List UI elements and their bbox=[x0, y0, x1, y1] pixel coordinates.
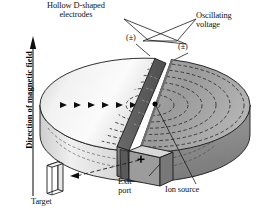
target-plate bbox=[47, 162, 63, 195]
label-polarity-left: (±) bbox=[126, 34, 136, 43]
target-bottom-edge bbox=[52, 191, 63, 195]
beam-arrow-head bbox=[70, 173, 79, 179]
label-target: Target bbox=[31, 198, 52, 207]
leader-oscillating-b bbox=[177, 19, 196, 41]
leader-pm-right bbox=[174, 53, 188, 60]
cut-face-edge bbox=[120, 150, 129, 181]
label-hollow-d-shaped-electrodes: Hollow D-shaped electrodes bbox=[47, 2, 105, 19]
label-polarity-right: (±) bbox=[178, 43, 188, 52]
leader-pm-left bbox=[136, 44, 150, 56]
label-ion-source: Ion source bbox=[165, 186, 199, 195]
exit-port-side-face bbox=[160, 152, 173, 186]
label-oscillating-voltage: Oscillating voltage bbox=[196, 12, 232, 29]
cyclotron-figure: Hollow D-shaped electrodes Oscillating v… bbox=[0, 0, 268, 221]
target-side bbox=[58, 162, 63, 191]
label-exit-port: Exit port bbox=[118, 178, 132, 195]
label-direction-of-magnetic-field: Direction of magnetic field bbox=[24, 25, 34, 175]
exit-port-box bbox=[129, 146, 173, 186]
